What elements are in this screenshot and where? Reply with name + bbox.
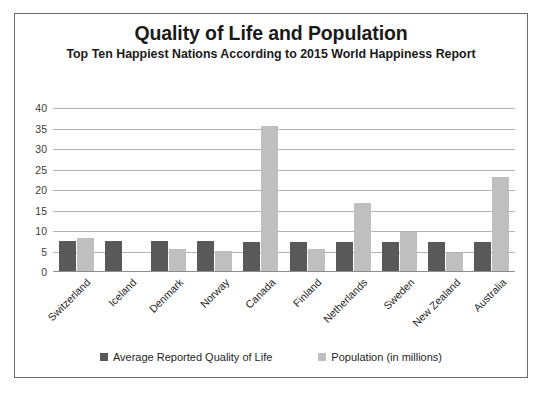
legend-item[interactable]: Average Reported Quality of Life [100, 351, 272, 363]
bar-group [469, 108, 515, 272]
bar-quality [336, 242, 353, 272]
bar-group [53, 108, 99, 272]
bar-group [376, 108, 422, 272]
y-axis-tick-label: 0 [41, 266, 47, 278]
bar-population [261, 126, 278, 272]
bar-quality [474, 242, 491, 272]
bar-quality [59, 241, 76, 272]
x-axis-tick-label: Norway [197, 276, 231, 310]
chart-container: Quality of Life and Population Top Ten H… [14, 13, 528, 378]
page-title: Quality of Life and Population [15, 22, 527, 44]
bar-population [354, 203, 371, 272]
x-axis-tick-label: Sweden [380, 276, 416, 312]
bar-population [400, 232, 417, 272]
plot-area: 4035302520151050 [53, 108, 515, 272]
y-axis-tick-label: 20 [35, 184, 47, 196]
bar-group [423, 108, 469, 272]
chart-legend: Average Reported Quality of LifePopulati… [15, 351, 527, 363]
x-axis-tick-label: Switzerland [45, 276, 92, 323]
bar-group [145, 108, 191, 272]
legend-item-label: Population (in millions) [331, 351, 442, 363]
bar-group [192, 108, 238, 272]
bar-quality [197, 241, 214, 272]
bar-quality [382, 242, 399, 272]
x-axis-tick-label: Australia [471, 276, 509, 314]
y-axis-tick-label: 35 [35, 123, 47, 135]
y-axis-tick-label: 30 [35, 143, 47, 155]
bar-population [169, 249, 186, 272]
bar-group [330, 108, 376, 272]
x-axis-tick-label: Canada [243, 276, 278, 311]
x-axis-tick-label: New Zealand [410, 276, 463, 329]
y-axis-tick-label: 25 [35, 164, 47, 176]
bar-quality [151, 241, 168, 272]
bar-population [77, 238, 94, 272]
bar-quality [105, 241, 122, 272]
y-axis-tick-label: 15 [35, 205, 47, 217]
bar-quality [243, 242, 260, 272]
bars-layer [53, 108, 515, 272]
legend-item[interactable]: Population (in millions) [318, 351, 442, 363]
chart-title-block: Quality of Life and Population Top Ten H… [15, 22, 527, 63]
x-axis-tick-label: Denmark [146, 276, 185, 315]
y-axis-tick-label: 5 [41, 246, 47, 258]
x-axis-tick-label: Finland [291, 276, 324, 309]
bar-group [99, 108, 145, 272]
bar-population [492, 177, 509, 272]
bar-population [215, 251, 232, 272]
bar-population [446, 253, 463, 272]
chart-subtitle: Top Ten Happiest Nations According to 20… [15, 47, 527, 63]
bar-quality [290, 242, 307, 272]
x-axis-labels: SwitzerlandIcelandDenmarkNorwayCanadaFin… [53, 276, 515, 354]
legend-item-label: Average Reported Quality of Life [113, 351, 272, 363]
axis-baseline [53, 271, 515, 272]
x-axis-tick-label: Iceland [106, 276, 139, 309]
bar-quality [428, 242, 445, 272]
bar-group [284, 108, 330, 272]
bar-group [238, 108, 284, 272]
legend-swatch-icon [100, 353, 108, 361]
y-axis-tick-label: 10 [35, 225, 47, 237]
y-axis-tick-label: 40 [35, 102, 47, 114]
x-axis-tick-label: Netherlands [321, 276, 370, 325]
bar-population [308, 249, 325, 272]
legend-swatch-icon [318, 353, 326, 361]
